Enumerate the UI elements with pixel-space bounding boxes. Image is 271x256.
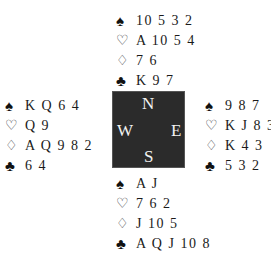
- west-clubs-row: ♣ 6 4: [5, 156, 93, 176]
- west-hearts: Q 9: [25, 119, 50, 133]
- heart-icon: ♡: [116, 34, 136, 48]
- diamond-icon: ♢: [205, 139, 225, 153]
- compass-south: S: [144, 148, 153, 165]
- north-spades-row: ♠ 10 5 3 2: [116, 11, 196, 31]
- spade-icon: ♠: [205, 99, 225, 114]
- east-clubs: 5 3 2: [225, 159, 261, 173]
- diamond-icon: ♢: [5, 139, 25, 153]
- north-diamonds: 7 6: [136, 54, 158, 68]
- heart-icon: ♡: [116, 197, 136, 211]
- east-clubs-row: ♣ 5 3 2: [205, 156, 271, 176]
- west-hearts-row: ♡ Q 9: [5, 116, 93, 136]
- west-diamonds: A Q 9 8 2: [25, 139, 93, 153]
- west-spades: K Q 6 4: [25, 99, 80, 113]
- east-hand: ♠ 9 8 7 ♡ K J 8 3 ♢ K 4 3 ♣ 5 3 2: [205, 96, 271, 176]
- club-icon: ♣: [205, 159, 225, 174]
- east-spades: 9 8 7: [225, 99, 261, 113]
- south-diamonds: J 10 5: [136, 217, 178, 231]
- heart-icon: ♡: [5, 119, 25, 133]
- south-spades: A J: [136, 177, 159, 191]
- west-hand: ♠ K Q 6 4 ♡ Q 9 ♢ A Q 9 8 2 ♣ 6 4: [5, 96, 93, 176]
- diamond-icon: ♢: [116, 217, 136, 231]
- spade-icon: ♠: [116, 14, 136, 29]
- east-hearts-row: ♡ K J 8 3: [205, 116, 271, 136]
- west-spades-row: ♠ K Q 6 4: [5, 96, 93, 116]
- compass-box: N W E S: [112, 91, 185, 168]
- north-hand: ♠ 10 5 3 2 ♡ A 10 5 4 ♢ 7 6 ♣ K 9 7: [116, 11, 196, 91]
- south-clubs: A Q J 10 8: [136, 237, 211, 251]
- spade-icon: ♠: [5, 99, 25, 114]
- north-clubs: K 9 7: [136, 74, 175, 88]
- west-diamonds-row: ♢ A Q 9 8 2: [5, 136, 93, 156]
- north-spades: 10 5 3 2: [136, 14, 194, 28]
- east-hearts: K J 8 3: [225, 119, 271, 133]
- east-diamonds: K 4 3: [225, 139, 264, 153]
- west-clubs: 6 4: [25, 159, 47, 173]
- diamond-icon: ♢: [116, 54, 136, 68]
- compass-east: E: [171, 122, 181, 139]
- east-spades-row: ♠ 9 8 7: [205, 96, 271, 116]
- south-clubs-row: ♣ A Q J 10 8: [116, 234, 211, 254]
- heart-icon: ♡: [205, 119, 225, 133]
- south-diamonds-row: ♢ J 10 5: [116, 214, 211, 234]
- north-diamonds-row: ♢ 7 6: [116, 51, 196, 71]
- south-hearts: 7 6 2: [136, 197, 172, 211]
- north-hearts: A 10 5 4: [136, 34, 196, 48]
- south-hearts-row: ♡ 7 6 2: [116, 194, 211, 214]
- club-icon: ♣: [5, 159, 25, 174]
- south-hand: ♠ A J ♡ 7 6 2 ♢ J 10 5 ♣ A Q J 10 8: [116, 174, 211, 254]
- compass-north: N: [142, 95, 154, 112]
- east-diamonds-row: ♢ K 4 3: [205, 136, 271, 156]
- south-spades-row: ♠ A J: [116, 174, 211, 194]
- north-hearts-row: ♡ A 10 5 4: [116, 31, 196, 51]
- club-icon: ♣: [116, 74, 136, 89]
- club-icon: ♣: [116, 237, 136, 252]
- compass-west: W: [117, 122, 133, 139]
- spade-icon: ♠: [116, 177, 136, 192]
- north-clubs-row: ♣ K 9 7: [116, 71, 196, 91]
